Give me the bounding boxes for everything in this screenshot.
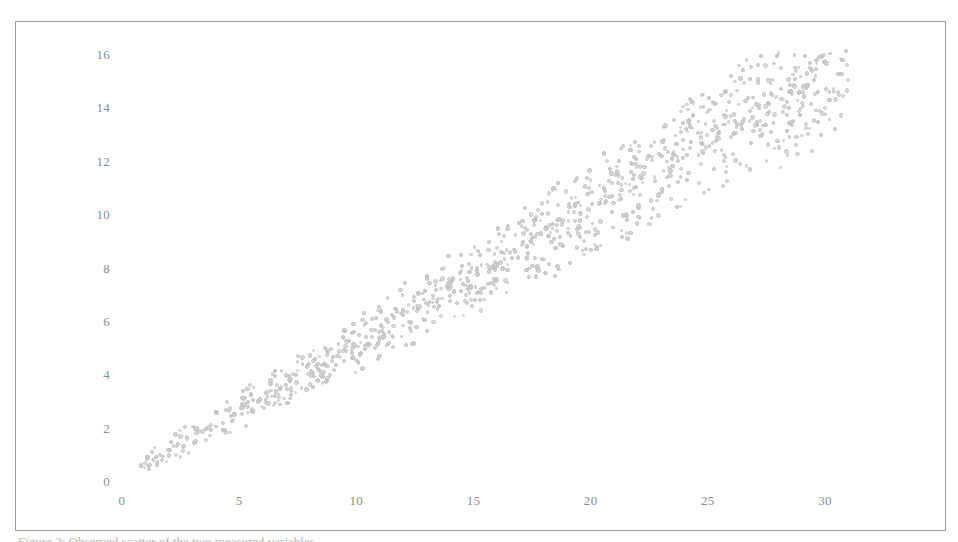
y-tick-label-6: 6: [78, 314, 110, 327]
x-tick-label-25: 25: [701, 494, 715, 507]
y-tick-label-0: 0: [78, 475, 110, 488]
x-tick-label-5: 5: [236, 494, 243, 507]
y-tick-label-10: 10: [78, 208, 110, 221]
y-tick-label-2: 2: [78, 421, 110, 434]
x-tick-label-30: 30: [818, 494, 832, 507]
x-tick-label-15: 15: [467, 494, 481, 507]
figure-caption: Figure 2: Observed scatter of the two me…: [18, 534, 898, 542]
y-tick-label-4: 4: [78, 368, 110, 381]
y-tick-label-16: 16: [78, 48, 110, 61]
scatter-plot-figure: 0246810121416 051015202530 Figure 2: Obs…: [0, 0, 958, 542]
x-tick-label-0: 0: [119, 494, 126, 507]
x-tick-label-10: 10: [350, 494, 364, 507]
y-tick-label-14: 14: [78, 101, 110, 114]
y-tick-label-8: 8: [78, 261, 110, 274]
x-tick-label-20: 20: [584, 494, 598, 507]
y-tick-label-12: 12: [78, 154, 110, 167]
figure-frame-border: [15, 21, 946, 531]
